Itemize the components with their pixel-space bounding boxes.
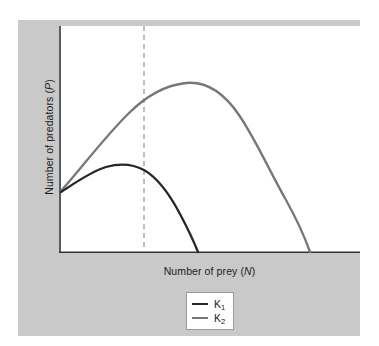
legend-swatch-k2 [192, 317, 208, 319]
y-axis-title-symbol: P [43, 83, 55, 90]
chart-legend: K1 K2 [186, 292, 234, 330]
legend-label-k2-subscript: 2 [221, 317, 225, 326]
series-line-k1 [61, 165, 198, 252]
legend-label-k2-base: K [214, 312, 221, 324]
legend-item-k1: K1 [192, 297, 225, 311]
y-axis-title-text: Number of predators [43, 97, 55, 195]
x-axis-title-symbol: N [244, 265, 252, 277]
chart-svg [18, 20, 360, 336]
x-axis-title-text: Number of prey [164, 265, 238, 277]
x-axis-title: Number of prey (N) [59, 265, 360, 277]
y-axis-title: Number of predators (P) [40, 47, 58, 227]
legend-item-k2: K2 [192, 311, 225, 325]
legend-swatch-k1 [192, 303, 208, 305]
legend-label-k1-base: K [214, 298, 221, 310]
legend-label-k1: K1 [214, 298, 225, 310]
chart-panel: Number of predators (P) Number of prey (… [18, 20, 360, 336]
legend-label-k2: K2 [214, 312, 225, 324]
figure-container: Number of predators (P) Number of prey (… [0, 0, 379, 346]
legend-label-k1-subscript: 1 [221, 303, 225, 312]
